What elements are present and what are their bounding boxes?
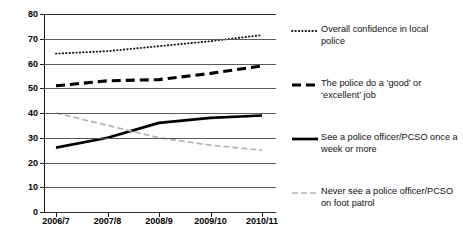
y-tick-label-0: 0 (33, 207, 38, 217)
x-tick-label-2009-10: 2009/10 (194, 216, 227, 226)
gridline-50 (44, 88, 276, 89)
x-tick-label-2006-7: 2006/7 (42, 216, 70, 226)
gridline-60 (44, 64, 276, 65)
y-tickmark-30 (40, 138, 44, 139)
legend-entry-1[interactable]: The police do a ‘good’ or ‘excellent’ jo… (292, 78, 463, 101)
y-tick-label-20: 20 (28, 158, 38, 168)
y-axis-labels: 01020304050607080 (0, 0, 42, 242)
y-tick-label-70: 70 (28, 34, 38, 44)
series-line-1 (56, 66, 262, 86)
series-line-3 (56, 113, 262, 150)
x-tick-label-2007-8: 2007/8 (94, 216, 122, 226)
y-tickmark-70 (40, 39, 44, 40)
legend-swatch-dotted-icon (292, 25, 318, 37)
legend-entry-3[interactable]: Never see a police officer/PCSO on foot … (292, 186, 463, 209)
y-tick-label-10: 10 (28, 182, 38, 192)
y-tickmark-50 (40, 88, 44, 89)
line-chart: 01020304050607080 2006/72007/82008/92009… (0, 0, 463, 242)
x-axis-labels: 2006/72007/82008/92009/102010/11 (44, 216, 276, 236)
legend-label-1: The police do a ‘good’ or ‘excellent’ jo… (321, 78, 421, 101)
y-tickmark-10 (40, 187, 44, 188)
gridline-0 (44, 212, 276, 213)
gridline-10 (44, 187, 276, 188)
x-tick-label-2010-11: 2010/11 (246, 216, 278, 226)
y-tick-label-50: 50 (28, 83, 38, 93)
legend-label-0: Overall confidence in local police (321, 24, 428, 47)
legend-entry-0[interactable]: Overall confidence in local police (292, 24, 463, 47)
x-tick-label-2008-9: 2008/9 (145, 216, 173, 226)
legend-label-2: See a police officer/PCSO once a week or… (321, 132, 458, 155)
gridline-20 (44, 163, 276, 164)
legend-swatch-dashed-icon (292, 79, 318, 91)
plot-area (44, 14, 276, 212)
legend-swatch-dash-dot-grey-icon (292, 187, 318, 199)
gridline-80 (44, 14, 276, 15)
gridline-30 (44, 138, 276, 139)
y-tickmark-60 (40, 64, 44, 65)
legend-entry-2[interactable]: See a police officer/PCSO once a week or… (292, 132, 463, 155)
gridline-70 (44, 39, 276, 40)
plot-wrapper: 01020304050607080 2006/72007/82008/92009… (0, 0, 290, 242)
y-tickmark-0 (40, 212, 44, 213)
legend-swatch-solid-icon (292, 133, 318, 145)
y-tickmark-20 (40, 163, 44, 164)
y-tickmark-80 (40, 14, 44, 15)
chart-legend: Overall confidence in local policeThe po… (292, 0, 463, 242)
y-tickmark-40 (40, 113, 44, 114)
y-tick-label-40: 40 (28, 108, 38, 118)
y-tick-label-80: 80 (28, 9, 38, 19)
y-tick-label-30: 30 (28, 133, 38, 143)
gridline-40 (44, 113, 276, 114)
y-tick-label-60: 60 (28, 59, 38, 69)
legend-label-3: Never see a police officer/PCSO on foot … (321, 186, 453, 209)
